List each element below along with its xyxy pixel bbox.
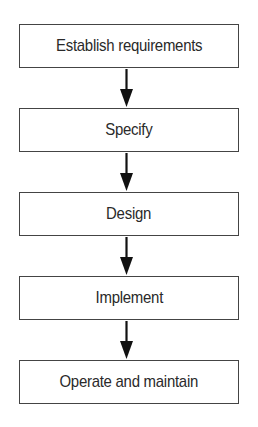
step-label: Operate and maintain bbox=[60, 372, 199, 392]
step-label: Establish requirements bbox=[56, 36, 202, 56]
step-label: Implement bbox=[95, 288, 162, 308]
arrow-down-icon bbox=[120, 237, 133, 275]
arrow-down-icon bbox=[120, 153, 133, 191]
arrow-down-icon bbox=[120, 321, 133, 359]
step-implement: Implement bbox=[19, 276, 239, 320]
step-label: Specify bbox=[105, 120, 152, 140]
step-label: Design bbox=[107, 204, 152, 224]
step-design: Design bbox=[19, 192, 239, 236]
step-specify: Specify bbox=[19, 108, 239, 152]
step-establish-requirements: Establish requirements bbox=[19, 24, 239, 68]
step-operate-and-maintain: Operate and maintain bbox=[19, 360, 239, 404]
arrow-down-icon bbox=[120, 69, 133, 107]
waterfall-flowchart: Establish requirements Specify Design Im… bbox=[0, 0, 258, 427]
